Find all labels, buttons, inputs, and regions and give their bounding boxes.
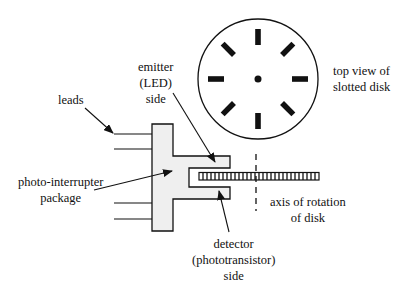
- label-leads: leads: [58, 92, 84, 108]
- disk-slot: [280, 42, 295, 57]
- label-line: detector: [192, 236, 275, 252]
- label-line: (phototransistor): [192, 252, 275, 268]
- leads: [114, 134, 152, 219]
- label-line: (LED): [138, 75, 173, 91]
- label-line: leads: [58, 92, 84, 108]
- label-line: side: [138, 91, 173, 107]
- leads-arrow: [85, 108, 113, 133]
- disk-center-hub: [255, 76, 262, 83]
- label-line: photo-interrupter: [18, 174, 103, 190]
- label-line: top view of: [333, 63, 390, 79]
- disk-slot: [221, 101, 236, 116]
- label-axis-of-rotation: axis of rotation of disk: [270, 194, 346, 226]
- disk-slot: [280, 101, 295, 116]
- disk-slot: [255, 29, 261, 45]
- disk-edge-side-view: [199, 173, 319, 181]
- label-line: slotted disk: [333, 79, 390, 95]
- disk-slot: [208, 76, 224, 82]
- label-line: of disk: [270, 210, 346, 226]
- emitter-arrow: [173, 93, 215, 162]
- disk-slot: [221, 42, 236, 57]
- label-detector-side: detector (phototransistor) side: [192, 236, 275, 284]
- label-emitter-side: emitter (LED) side: [138, 59, 173, 107]
- label-line: package: [18, 190, 103, 206]
- label-line: emitter: [138, 59, 173, 75]
- label-top-view-of-slotted-disk: top view of slotted disk: [333, 63, 390, 95]
- label-line: axis of rotation: [270, 194, 346, 210]
- disk-slot: [292, 76, 308, 82]
- slotted-disk-top-view: [198, 19, 318, 139]
- label-photo-interrupter-package: photo-interrupter package: [18, 174, 103, 206]
- label-line: side: [192, 268, 275, 284]
- disk-slot: [255, 113, 261, 129]
